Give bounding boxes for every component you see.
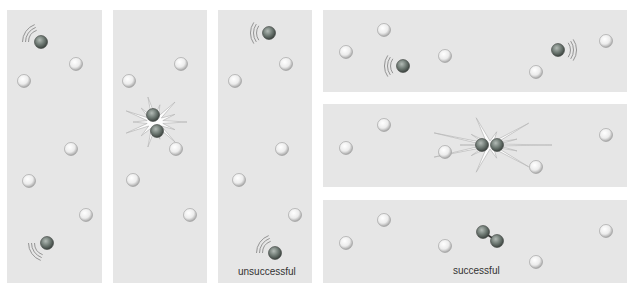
motion-trail-icon [253,24,256,42]
dark-molecule-icon [477,226,490,239]
dark-molecule-icon [151,125,164,138]
dark-molecule-icon [552,44,565,57]
caption-unsuccessful: unsuccessful [238,266,296,277]
light-molecule-icon [378,119,391,132]
light-molecule-icon [340,142,353,155]
light-molecule-icon [289,209,302,222]
light-molecule-icon [600,35,613,48]
molecule-layer [0,0,631,295]
light-molecule-icon [23,175,36,188]
light-molecule-icon [439,146,452,159]
dark-molecule-icon [35,36,48,49]
dark-molecule-icon [269,247,282,260]
collision-burst-icon [126,97,187,147]
light-molecule-icon [340,237,353,250]
light-molecule-icon [378,24,391,37]
light-molecule-icon [65,143,78,156]
light-molecule-icon [439,50,452,63]
dark-molecule-icon [397,60,410,73]
light-molecule-icon [127,174,140,187]
motion-trail-icon [257,26,259,40]
light-molecule-icon [530,161,543,174]
light-molecule-icon [18,75,31,88]
light-molecule-icon [175,58,188,71]
dark-molecule-icon [476,139,489,152]
collision-burst-group [126,97,552,172]
light-molecule-icon [600,129,613,142]
light-molecule-icon [600,225,613,238]
light-molecule-icon [276,143,289,156]
dark-molecule-icon [147,109,160,122]
light-molecule-icon [170,143,183,156]
light-molecule-icon [439,240,452,253]
motion-trail-icon [387,57,390,75]
light-molecule-icon [378,214,391,227]
motion-trail-icon [568,43,570,57]
dark-molecule-icon [491,235,504,248]
motion-trail-icon [391,59,393,73]
light-molecule-icon [184,209,197,222]
light-molecule-icon [233,174,246,187]
light-molecule-icon [70,58,83,71]
light-molecule-icon [123,75,136,88]
light-molecule-icon [280,58,293,71]
light-molecule-icon [530,256,543,269]
dark-molecule-icon [491,139,504,152]
light-molecule-icon [340,46,353,59]
dark-molecule-icon [41,237,54,250]
molecule-group [18,24,613,269]
caption-successful: successful [453,265,500,276]
dark-molecule-icon [263,27,276,40]
motion-trail-icon [571,41,574,59]
light-molecule-icon [229,75,242,88]
light-molecule-icon [80,209,93,222]
light-molecule-icon [530,66,543,79]
